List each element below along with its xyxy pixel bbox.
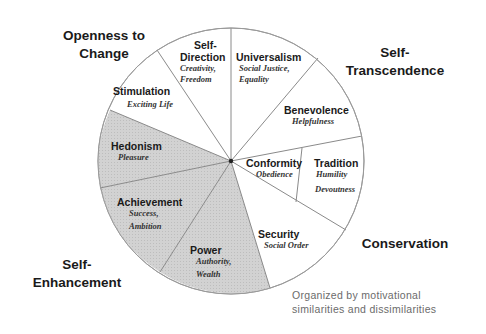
value-security: Security Social Order	[258, 228, 309, 251]
value-description: Pleasure	[111, 152, 162, 163]
group-self-transcendence: Self- Transcendence	[340, 44, 450, 80]
value-description: Freedom	[180, 74, 226, 85]
value-name: Self-	[180, 39, 226, 51]
value-description: Wealth	[190, 269, 231, 280]
value-name: Benevolence	[284, 104, 349, 116]
group-self-enhancement: Self- Enhancement	[22, 256, 132, 292]
diagram-caption: Organized by motivational similarities a…	[292, 288, 436, 316]
value-description: Humility	[314, 169, 358, 180]
value-description: Equality	[236, 74, 301, 85]
value-name: Security	[258, 228, 309, 240]
value-name: Direction	[180, 51, 226, 63]
value-description: Obedience	[246, 169, 302, 180]
value-power: Power Authority, Wealth	[190, 244, 231, 280]
group-label-line: Enhancement	[22, 274, 132, 292]
value-benevolence: Benevolence Helpfulness	[284, 104, 349, 127]
value-hedonism: Hedonism Pleasure	[111, 140, 162, 163]
group-label-line: Change	[54, 45, 154, 63]
value-name: Conformity	[246, 157, 302, 169]
value-name: Achievement	[117, 196, 182, 208]
group-label-line: Conservation	[350, 235, 460, 253]
value-description: Creativity,	[180, 63, 226, 74]
value-name: Tradition	[314, 157, 358, 169]
value-achievement: Achievement Success, Ambition	[117, 196, 182, 232]
value-tradition: Tradition Humility Devoutness	[314, 157, 358, 195]
group-label-line: Transcendence	[340, 62, 450, 80]
value-description: Social Order	[258, 240, 309, 251]
caption-line: similarities and dissimilarities	[292, 302, 436, 316]
value-description: Exciting Life	[113, 99, 173, 110]
value-description: Success,	[117, 208, 182, 219]
value-description: Devoutness	[314, 184, 358, 195]
value-name: Stimulation	[113, 85, 173, 97]
group-label-line: Openness to	[54, 27, 154, 45]
caption-line: Organized by motivational	[292, 288, 436, 302]
value-name: Universalism	[236, 51, 301, 63]
value-description: Helpfulness	[284, 116, 349, 127]
group-openness-to-change: Openness to Change	[54, 27, 154, 63]
value-name: Power	[190, 244, 231, 256]
group-conservation: Conservation	[350, 235, 460, 253]
value-stimulation: Stimulation Exciting Life	[113, 85, 173, 110]
value-description: Social Justice,	[236, 63, 301, 74]
group-label-line: Self-	[340, 44, 450, 62]
center-point	[229, 159, 233, 163]
value-conformity: Conformity Obedience	[246, 157, 302, 180]
value-description: Ambition	[117, 221, 182, 232]
value-universalism: Universalism Social Justice, Equality	[236, 51, 301, 85]
value-description: Authority,	[190, 256, 231, 267]
value-name: Hedonism	[111, 140, 162, 152]
value-self-direction: Self- Direction Creativity, Freedom	[180, 39, 226, 85]
group-label-line: Self-	[22, 256, 132, 274]
